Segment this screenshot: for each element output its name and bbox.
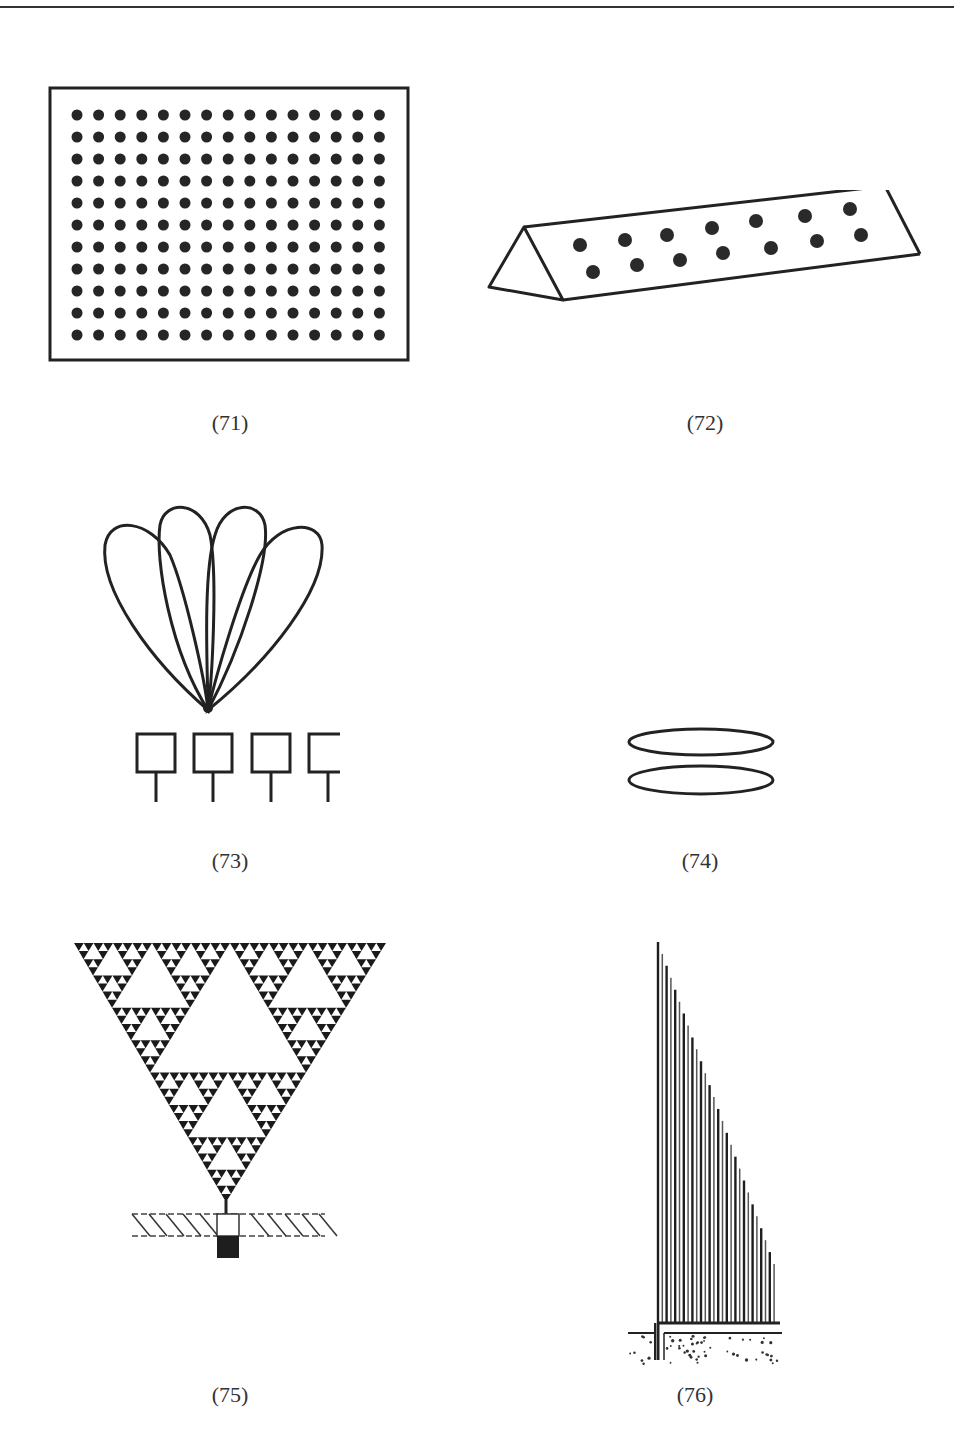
- beam-pattern: [90, 480, 340, 830]
- figure-76: [610, 930, 810, 1370]
- dotted-prism: [480, 190, 930, 310]
- dot-grid-panel: [48, 86, 412, 364]
- figure-72: [480, 190, 930, 310]
- caption-76: (76): [645, 1382, 745, 1408]
- caption-72: (72): [655, 410, 755, 436]
- caption-75: (75): [180, 1382, 280, 1408]
- figure-71: [48, 86, 412, 364]
- figure-73: [90, 480, 340, 830]
- figure-75: [60, 930, 400, 1270]
- caption-74: (74): [650, 848, 750, 874]
- stacked-ellipses: [600, 710, 800, 810]
- sierpinski-antenna: [60, 930, 400, 1270]
- caption-71: (71): [180, 410, 280, 436]
- caption-73: (73): [180, 848, 280, 874]
- top-rule: [0, 6, 954, 8]
- monopole-array: [610, 930, 810, 1370]
- figure-74: [600, 710, 800, 810]
